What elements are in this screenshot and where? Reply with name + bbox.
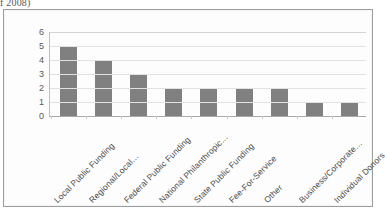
- y-axis-tick-label: 3: [39, 69, 44, 79]
- bar[interactable]: [306, 102, 323, 116]
- x-axis-tick-label: Local Public Funding: [51, 141, 115, 205]
- y-axis-tick-label: 4: [39, 55, 44, 65]
- y-axis-tick-label: 5: [39, 41, 44, 51]
- x-axis-labels: Local Public FundingRegional/Local…Feder…: [49, 117, 365, 205]
- page-top-text-fragment: f 2008): [0, 0, 120, 8]
- y-axis-tick-label: 0: [39, 111, 44, 121]
- y-axis-tick-label: 2: [39, 83, 44, 93]
- gridline: [50, 60, 366, 61]
- y-axis-tick-label: 6: [39, 27, 44, 37]
- x-axis-tick-label: Business/Corporate…: [297, 138, 364, 205]
- y-axis-tick-label: 1: [39, 97, 44, 107]
- gridline: [50, 74, 366, 75]
- chart-canvas: 0123456 Local Public FundingRegional/Loc…: [4, 10, 374, 208]
- plot-area: 0123456: [49, 32, 366, 117]
- gridline: [50, 88, 366, 89]
- bar[interactable]: [341, 102, 358, 116]
- x-axis-tick-label: Other: [262, 183, 284, 205]
- bar[interactable]: [130, 74, 147, 116]
- gridline: [50, 46, 366, 47]
- x-axis-tick-label: Federal Public Funding: [122, 135, 192, 205]
- gridline: [50, 102, 366, 103]
- chart-frame: 0123456 Local Public FundingRegional/Loc…: [3, 9, 373, 207]
- bar[interactable]: [60, 46, 77, 116]
- x-axis-tick-label: National Philanthropic…: [157, 132, 230, 205]
- x-axis-tick-label: State Public Funding: [192, 141, 256, 205]
- gridline: [50, 32, 366, 33]
